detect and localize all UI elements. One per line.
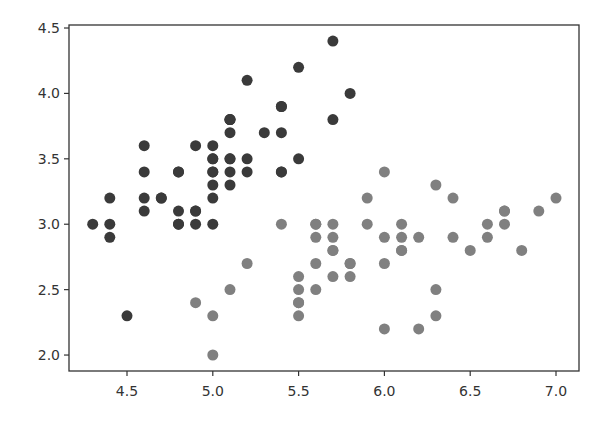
- data-point-dark: [156, 193, 167, 204]
- data-point-dark: [327, 36, 338, 47]
- x-tick-label: 4.5: [116, 383, 138, 399]
- data-point-dark: [139, 206, 150, 217]
- data-point-dark: [207, 153, 218, 164]
- y-tick-label: 2.5: [38, 282, 60, 298]
- data-point-dark: [225, 153, 236, 164]
- data-point-gray: [207, 310, 218, 321]
- data-point-dark: [190, 206, 201, 217]
- data-point-gray: [293, 271, 304, 282]
- data-point-dark: [173, 166, 184, 177]
- data-point-dark: [242, 75, 253, 86]
- data-point-gray: [327, 219, 338, 230]
- data-point-dark: [139, 193, 150, 204]
- data-point-gray: [225, 284, 236, 295]
- data-point-dark: [225, 180, 236, 191]
- data-point-gray: [293, 297, 304, 308]
- y-tick-label: 4.0: [38, 85, 60, 101]
- data-point-gray: [327, 245, 338, 256]
- data-point-dark: [104, 232, 115, 243]
- data-point-gray: [345, 271, 356, 282]
- data-point-dark: [225, 166, 236, 177]
- data-point-gray: [310, 284, 321, 295]
- data-point-dark: [207, 140, 218, 151]
- data-point-dark: [293, 62, 304, 73]
- data-point-gray: [327, 232, 338, 243]
- data-point-gray: [276, 219, 287, 230]
- data-point-gray: [362, 193, 373, 204]
- data-point-dark: [242, 153, 253, 164]
- y-tick-label: 2.0: [38, 347, 60, 363]
- data-point-gray: [516, 245, 527, 256]
- y-tick-label: 3.5: [38, 151, 60, 167]
- data-point-gray: [345, 258, 356, 269]
- data-point-gray: [430, 310, 441, 321]
- y-axis: 2.02.53.03.54.04.5: [38, 20, 69, 363]
- data-point-dark: [87, 219, 98, 230]
- data-point-gray: [413, 323, 424, 334]
- x-tick-label: 5.0: [202, 383, 224, 399]
- data-point-gray: [499, 219, 510, 230]
- data-point-gray: [207, 350, 218, 361]
- y-tick-label: 3.0: [38, 216, 60, 232]
- data-point-gray: [379, 232, 390, 243]
- data-point-dark: [242, 166, 253, 177]
- data-point-gray: [379, 258, 390, 269]
- x-tick-label: 5.5: [287, 383, 309, 399]
- data-point-gray: [413, 232, 424, 243]
- data-point-dark: [190, 219, 201, 230]
- data-point-dark: [225, 114, 236, 125]
- x-axis: 4.55.05.56.06.57.0: [116, 371, 567, 399]
- data-point-dark: [173, 206, 184, 217]
- data-point-gray: [533, 206, 544, 217]
- data-point-gray: [379, 323, 390, 334]
- data-point-gray: [482, 232, 493, 243]
- data-point-dark: [139, 166, 150, 177]
- data-point-dark: [276, 101, 287, 112]
- x-tick-label: 7.0: [545, 383, 567, 399]
- data-point-gray: [293, 310, 304, 321]
- data-point-dark: [276, 127, 287, 138]
- data-point-dark: [173, 219, 184, 230]
- scatter-chart: 4.55.05.56.06.57.0 2.02.53.03.54.04.5: [0, 0, 608, 429]
- data-point-dark: [207, 219, 218, 230]
- data-point-gray: [430, 180, 441, 191]
- data-point-gray: [396, 219, 407, 230]
- data-point-dark: [122, 310, 133, 321]
- data-point-dark: [207, 180, 218, 191]
- data-point-gray: [293, 284, 304, 295]
- data-point-dark: [104, 193, 115, 204]
- data-point-gray: [396, 245, 407, 256]
- data-point-dark: [293, 153, 304, 164]
- data-point-dark: [104, 219, 115, 230]
- data-point-gray: [482, 219, 493, 230]
- data-points: [87, 36, 561, 361]
- data-point-gray: [448, 193, 459, 204]
- data-point-gray: [310, 232, 321, 243]
- data-point-gray: [499, 206, 510, 217]
- data-point-gray: [310, 219, 321, 230]
- data-point-dark: [225, 127, 236, 138]
- data-point-dark: [190, 140, 201, 151]
- data-point-dark: [345, 88, 356, 99]
- data-point-dark: [139, 140, 150, 151]
- data-point-gray: [448, 232, 459, 243]
- data-point-gray: [430, 284, 441, 295]
- data-point-dark: [276, 166, 287, 177]
- data-point-gray: [465, 245, 476, 256]
- data-point-gray: [310, 258, 321, 269]
- x-tick-label: 6.0: [373, 383, 395, 399]
- data-point-dark: [207, 166, 218, 177]
- data-point-dark: [207, 193, 218, 204]
- data-point-dark: [259, 127, 270, 138]
- data-point-gray: [379, 166, 390, 177]
- data-point-gray: [362, 219, 373, 230]
- data-point-gray: [190, 297, 201, 308]
- x-tick-label: 6.5: [459, 383, 481, 399]
- data-point-gray: [242, 258, 253, 269]
- data-point-gray: [551, 193, 562, 204]
- y-tick-label: 4.5: [38, 20, 60, 36]
- data-point-gray: [327, 271, 338, 282]
- data-point-gray: [396, 232, 407, 243]
- data-point-dark: [327, 114, 338, 125]
